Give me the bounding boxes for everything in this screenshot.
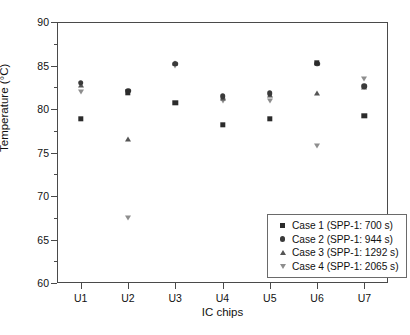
- legend-marker-square-icon: [273, 223, 292, 228]
- legend-swatch: [280, 223, 285, 228]
- x-tick-major: [128, 283, 129, 289]
- legend-item[interactable]: Case 3 (SPP-1: 1292 s): [273, 246, 399, 260]
- y-tick-major: [51, 196, 57, 197]
- data-point-marker: [125, 215, 131, 220]
- x-tick-label: U4: [216, 292, 229, 304]
- data-point-marker: [267, 116, 272, 121]
- data-point-marker: [172, 60, 178, 65]
- data-point-marker: [314, 60, 319, 65]
- legend-label: Case 2 (SPP-1: 944 s): [292, 234, 393, 245]
- scatter-chart-figure: Temperature (°C) 60657075808590 U1U2U3U4…: [0, 0, 410, 335]
- x-tick-label: U3: [168, 292, 181, 304]
- y-tick-minor: [54, 131, 58, 132]
- legend-marker-circle-icon: [273, 236, 292, 242]
- data-point-marker: [172, 63, 178, 68]
- chart-legend: Case 1 (SPP-1: 700 s)Case 2 (SPP-1: 944 …: [267, 214, 407, 278]
- x-tick-major: [317, 283, 318, 289]
- y-tick-major: [51, 109, 57, 110]
- data-point-marker: [78, 116, 83, 121]
- x-tick-label: U5: [263, 292, 276, 304]
- data-point-marker: [220, 122, 225, 127]
- data-point-marker: [78, 89, 84, 94]
- data-point-marker: [220, 99, 226, 104]
- data-point-marker: [267, 93, 273, 98]
- legend-marker-triangle-up-icon: [273, 250, 292, 255]
- y-tick-minor: [54, 218, 58, 219]
- x-axis-title: IC chips: [57, 306, 388, 318]
- data-point-marker: [314, 61, 320, 67]
- legend-swatch: [280, 250, 286, 255]
- legend-item[interactable]: Case 2 (SPP-1: 944 s): [273, 233, 399, 247]
- data-point-marker: [125, 88, 131, 94]
- data-point-marker: [267, 91, 273, 97]
- legend-label: Case 1 (SPP-1: 700 s): [292, 220, 393, 231]
- legend-swatch: [280, 264, 286, 269]
- x-tick-major: [175, 283, 176, 289]
- data-point-marker: [125, 90, 130, 95]
- y-tick-label: 85: [37, 60, 49, 72]
- y-tick-minor: [54, 87, 58, 88]
- plot-area: 60657075808590 U1U2U3U4U5U6U7 Case 1 (SP…: [57, 22, 388, 283]
- data-point-marker: [314, 144, 320, 149]
- x-tick-major: [270, 283, 271, 289]
- y-axis-title: Temperature (°C): [0, 64, 10, 152]
- data-point-marker: [220, 93, 226, 99]
- data-point-marker: [361, 76, 367, 81]
- y-tick-label: 60: [37, 277, 49, 289]
- x-tick-label: U2: [121, 292, 134, 304]
- x-tick-major: [81, 283, 82, 289]
- x-tick-label: U1: [74, 292, 87, 304]
- data-point-marker: [220, 95, 226, 100]
- y-tick-major: [51, 283, 57, 284]
- x-tick-major: [364, 283, 365, 289]
- legend-swatch: [280, 236, 286, 242]
- data-point-marker: [173, 100, 178, 105]
- y-tick-label: 65: [37, 234, 49, 246]
- y-tick-major: [51, 153, 57, 154]
- y-tick-major: [51, 22, 57, 23]
- legend-label: Case 3 (SPP-1: 1292 s): [292, 247, 399, 258]
- legend-item[interactable]: Case 4 (SPP-1: 2065 s): [273, 260, 399, 274]
- data-point-marker: [267, 99, 273, 104]
- data-point-marker: [362, 113, 367, 118]
- x-tick-label: U6: [310, 292, 323, 304]
- data-point-marker: [78, 82, 84, 87]
- y-tick-label: 80: [37, 103, 49, 115]
- data-point-marker: [362, 84, 368, 90]
- x-tick-major: [223, 283, 224, 289]
- y-tick-label: 70: [37, 190, 49, 202]
- x-tick-label: U7: [358, 292, 371, 304]
- data-point-marker: [361, 85, 367, 90]
- y-tick-label: 90: [37, 16, 49, 28]
- data-point-marker: [125, 136, 131, 141]
- data-point-marker: [172, 61, 178, 67]
- legend-label: Case 4 (SPP-1: 2065 s): [292, 261, 399, 272]
- y-tick-major: [51, 240, 57, 241]
- y-tick-minor: [54, 44, 58, 45]
- y-tick-minor: [54, 261, 58, 262]
- legend-marker-triangle-down-icon: [273, 264, 292, 269]
- legend-item[interactable]: Case 1 (SPP-1: 700 s): [273, 219, 399, 233]
- data-point-marker: [314, 91, 320, 96]
- y-tick-label: 75: [37, 147, 49, 159]
- y-tick-major: [51, 66, 57, 67]
- y-tick-minor: [54, 174, 58, 175]
- data-point-marker: [78, 80, 84, 86]
